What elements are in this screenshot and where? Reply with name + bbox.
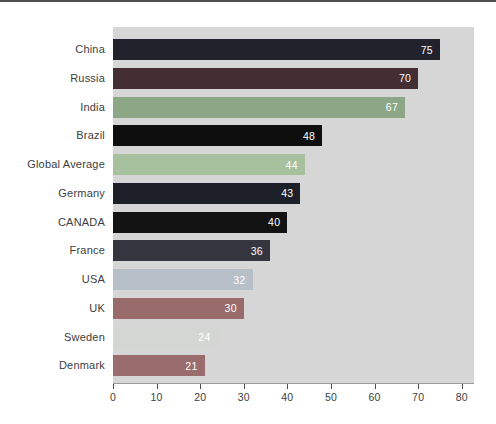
- bar-global-average: 44: [113, 154, 305, 175]
- value-label-germany: 43: [281, 187, 300, 199]
- value-label-france: 36: [251, 245, 270, 257]
- value-label-china: 75: [421, 44, 440, 56]
- x-tick-mark-40: [287, 384, 288, 389]
- bar-sweden: 24: [113, 327, 218, 348]
- x-tick-mark-70: [418, 384, 419, 389]
- category-label-brazil: Brazil: [0, 125, 105, 146]
- category-label-germany: Germany: [0, 183, 105, 204]
- category-label-canada: CANADA: [0, 212, 105, 233]
- value-label-brazil: 48: [303, 130, 322, 142]
- x-tick-label-40: 40: [281, 391, 293, 403]
- x-tick-mark-80: [462, 384, 463, 389]
- value-label-russia: 70: [399, 72, 418, 84]
- value-label-denmark: 21: [185, 360, 204, 372]
- category-label-denmark: Denmark: [0, 355, 105, 376]
- x-tick-label-60: 60: [369, 391, 381, 403]
- value-label-canada: 40: [268, 216, 287, 228]
- x-tick-mark-30: [244, 384, 245, 389]
- x-tick-mark-20: [200, 384, 201, 389]
- category-label-india: India: [0, 97, 105, 118]
- bar-china: 75: [113, 39, 440, 60]
- value-label-india: 67: [386, 101, 405, 113]
- x-tick-label-20: 20: [194, 391, 206, 403]
- category-label-china: China: [0, 39, 105, 60]
- x-tick-mark-10: [157, 384, 158, 389]
- value-label-usa: 32: [233, 274, 252, 286]
- bar-brazil: 48: [113, 125, 322, 146]
- bar-usa: 32: [113, 269, 253, 290]
- value-label-uk: 30: [225, 302, 244, 314]
- bar-chart-page: { "page": { "background": "#ffffff", "to…: [0, 0, 496, 424]
- bar-uk: 30: [113, 298, 244, 319]
- x-tick-mark-60: [375, 384, 376, 389]
- x-tick-label-30: 30: [238, 391, 250, 403]
- value-label-global-average: 44: [286, 159, 305, 171]
- x-tick-label-50: 50: [325, 391, 337, 403]
- bar-denmark: 21: [113, 355, 205, 376]
- bar-france: 36: [113, 240, 270, 261]
- bar-india: 67: [113, 97, 405, 118]
- bar-germany: 43: [113, 183, 300, 204]
- category-label-usa: USA: [0, 269, 105, 290]
- x-tick-label-0: 0: [110, 391, 116, 403]
- category-label-global-average: Global Average: [0, 154, 105, 175]
- x-tick-mark-50: [331, 384, 332, 389]
- category-label-russia: Russia: [0, 68, 105, 89]
- x-tick-label-70: 70: [412, 391, 424, 403]
- plot-area: 757067484443403632302421: [113, 27, 474, 384]
- value-label-sweden: 24: [198, 331, 217, 343]
- bar-canada: 40: [113, 212, 287, 233]
- category-label-sweden: Sweden: [0, 327, 105, 348]
- x-tick-label-10: 10: [151, 391, 163, 403]
- category-label-france: France: [0, 240, 105, 261]
- category-label-uk: UK: [0, 298, 105, 319]
- x-tick-mark-0: [113, 384, 114, 389]
- horizontal-bar-chart: ChinaRussiaIndiaBrazilGlobal AverageGerm…: [0, 0, 496, 424]
- x-tick-label-80: 80: [456, 391, 468, 403]
- bar-russia: 70: [113, 68, 418, 89]
